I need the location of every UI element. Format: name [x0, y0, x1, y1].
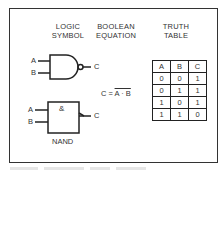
table-row: 0 0 1 — [153, 73, 207, 85]
ansi-output-c-label: C — [94, 63, 99, 71]
caption-blur — [44, 167, 84, 170]
table-row: 0 1 1 — [153, 85, 207, 97]
boolean-equation: C = A · B — [101, 89, 131, 98]
cell: 0 — [153, 85, 171, 97]
faint-caption — [10, 167, 150, 171]
iec-output-c-label: C — [94, 112, 99, 120]
ansi-input-b-label: B — [31, 69, 36, 77]
cell: 1 — [189, 73, 207, 85]
cell: 1 — [171, 109, 189, 121]
caption-blur — [10, 167, 38, 170]
iec-input-b-label: B — [28, 118, 33, 126]
table-header-row: A B C — [153, 61, 207, 73]
cell: 1 — [189, 97, 207, 109]
equation-rhs-negated: A · B — [115, 89, 131, 98]
truth-table: A B C 0 0 1 0 1 1 1 0 1 1 1 0 — [152, 60, 207, 121]
cell: 0 — [171, 73, 189, 85]
caption-blur — [116, 167, 146, 170]
cell: 0 — [153, 73, 171, 85]
cell: 0 — [189, 109, 207, 121]
table-row: 1 0 1 — [153, 97, 207, 109]
iec-input-a-label: A — [28, 106, 33, 114]
cell: 0 — [171, 97, 189, 109]
and-symbol: & — [59, 105, 64, 113]
column-header: C — [189, 61, 207, 73]
caption-blur — [90, 167, 110, 170]
cell: 1 — [153, 97, 171, 109]
ansi-input-a-label: A — [31, 57, 36, 65]
column-header: B — [171, 61, 189, 73]
cell: 1 — [171, 85, 189, 97]
column-header: A — [153, 61, 171, 73]
cell: 1 — [153, 109, 171, 121]
gate-name-label: NAND — [52, 138, 73, 146]
table-row: 1 1 0 — [153, 109, 207, 121]
cell: 1 — [189, 85, 207, 97]
equation-lhs: C = — [101, 89, 113, 98]
ansi-nand-gate-icon — [38, 55, 91, 79]
